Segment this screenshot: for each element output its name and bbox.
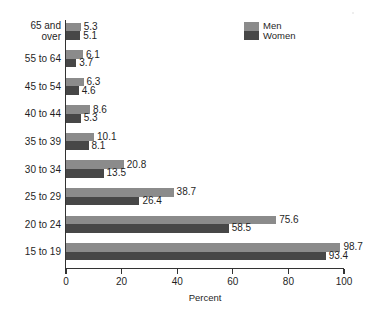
- x-axis-title: Percent: [189, 292, 222, 303]
- category-label: 40 to 44: [25, 108, 61, 119]
- bar-value-label: 58.5: [232, 223, 251, 233]
- category-label: 65 andover: [30, 20, 61, 42]
- x-tick-100: [343, 269, 344, 274]
- bar-row: 5.3: [66, 23, 344, 32]
- category-label: 35 to 39: [25, 136, 61, 147]
- bar-group: 35 to 3910.18.1: [66, 133, 344, 150]
- x-tick-40: [177, 269, 178, 274]
- category-label-line: 25 to 29: [25, 191, 61, 202]
- bar-row: 58.5: [66, 224, 344, 233]
- x-tick-label-0: 0: [63, 276, 69, 287]
- bar-value-label: 5.1: [83, 31, 97, 41]
- bar-women: 4.6: [66, 86, 79, 95]
- category-label: 25 to 29: [25, 191, 61, 202]
- bar-value-label: 8.1: [92, 141, 106, 151]
- x-tick-label-40: 40: [172, 276, 183, 287]
- bar-row: 3.7: [66, 59, 344, 68]
- x-axis-line: [65, 268, 344, 269]
- x-tick-label-100: 100: [336, 276, 353, 287]
- bar-row: 8.1: [66, 141, 344, 150]
- x-tick-0: [65, 269, 66, 274]
- bar-row: 75.6: [66, 216, 344, 225]
- bar-women: 26.4: [66, 197, 139, 206]
- bar-row: 6.1: [66, 50, 344, 59]
- x-tick-label-80: 80: [283, 276, 294, 287]
- x-tick-60: [232, 269, 233, 274]
- category-label-line: 65 and: [30, 20, 61, 31]
- bar-women: 3.7: [66, 59, 76, 68]
- bar-group: 15 to 1998.793.4: [66, 243, 344, 260]
- bar-value-label: 13.5: [107, 168, 126, 178]
- bar-row: 6.3: [66, 78, 344, 87]
- bar-value-label: 3.7: [79, 58, 93, 68]
- bar-row: 98.7: [66, 243, 344, 252]
- bar-row: 5.1: [66, 31, 344, 40]
- bar-value-label: 5.3: [84, 113, 98, 123]
- bar-row: 93.4: [66, 252, 344, 261]
- bar-women: 8.1: [66, 141, 89, 150]
- category-label: 30 to 34: [25, 164, 61, 175]
- x-tick-label-20: 20: [116, 276, 127, 287]
- category-label: 20 to 24: [25, 219, 61, 230]
- bar-women: 13.5: [66, 169, 104, 178]
- bar-women: 5.3: [66, 114, 81, 123]
- bar-men: 10.1: [66, 133, 94, 142]
- category-label-line: 45 to 54: [25, 81, 61, 92]
- category-label-line: over: [30, 31, 61, 42]
- bar-group: 20 to 2475.658.5: [66, 216, 344, 233]
- bar-women: 58.5: [66, 224, 229, 233]
- category-label-line: 15 to 19: [25, 246, 61, 257]
- bar-row: 13.5: [66, 169, 344, 178]
- category-label: 45 to 54: [25, 81, 61, 92]
- bar-men: 5.3: [66, 23, 81, 32]
- scan-artifact: [352, 12, 354, 14]
- x-tick-80: [288, 269, 289, 274]
- bar-row: 38.7: [66, 188, 344, 197]
- bar-value-label: 26.4: [142, 196, 161, 206]
- bar-women: 93.4: [66, 252, 326, 261]
- bar-value-label: 4.6: [82, 86, 96, 96]
- bar-row: 26.4: [66, 197, 344, 206]
- bar-chart: MenWomen 020406080100 65 andover5.35.155…: [0, 0, 389, 316]
- bar-group: 55 to 646.13.7: [66, 50, 344, 67]
- category-label: 55 to 64: [25, 53, 61, 64]
- bar-group: 45 to 546.34.6: [66, 78, 344, 95]
- bar-women: 5.1: [66, 31, 80, 40]
- plot-area: 020406080100 65 andover5.35.155 to 646.1…: [66, 20, 344, 268]
- bar-group: 40 to 448.65.3: [66, 105, 344, 122]
- bar-group: 25 to 2938.726.4: [66, 188, 344, 205]
- category-label-line: 35 to 39: [25, 136, 61, 147]
- x-tick-20: [121, 269, 122, 274]
- x-tick-label-60: 60: [227, 276, 238, 287]
- category-label-line: 55 to 64: [25, 53, 61, 64]
- bar-row: 5.3: [66, 114, 344, 123]
- bar-value-label: 93.4: [329, 251, 348, 261]
- bar-group: 30 to 3420.813.5: [66, 160, 344, 177]
- category-label: 15 to 19: [25, 246, 61, 257]
- category-label-line: 20 to 24: [25, 219, 61, 230]
- bar-row: 4.6: [66, 86, 344, 95]
- bar-row: 8.6: [66, 105, 344, 114]
- category-label-line: 30 to 34: [25, 164, 61, 175]
- bar-men: 98.7: [66, 243, 340, 252]
- bar-row: 10.1: [66, 133, 344, 142]
- bar-group: 65 andover5.35.1: [66, 23, 344, 40]
- category-label-line: 40 to 44: [25, 108, 61, 119]
